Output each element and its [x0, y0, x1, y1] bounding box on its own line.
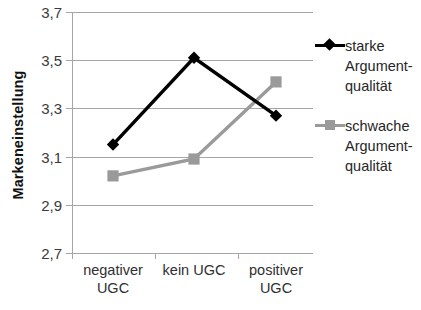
legend-label: schwache Argument- qualität	[345, 116, 413, 176]
legend: starke Argument- qualität schwache Argum…	[315, 36, 421, 196]
legend-entry-starke[interactable]: starke Argument- qualität	[315, 36, 421, 96]
legend-label: starke Argument- qualität	[345, 36, 413, 96]
square-marker-icon	[315, 116, 345, 133]
legend-entry-schwache[interactable]: schwache Argument- qualität	[315, 116, 421, 176]
diamond-marker-icon	[315, 36, 345, 53]
series-starke-argumentqualitaet	[107, 52, 282, 151]
data-point-marker[interactable]	[107, 170, 118, 181]
chart-figure: Markeneinstellung 3,7 3,5 3,3 3,1 2,9 2,…	[0, 0, 421, 310]
data-point-marker[interactable]	[188, 153, 199, 164]
series-line	[113, 58, 276, 145]
series-schwache-argumentqualitaet	[107, 76, 281, 181]
data-point-marker[interactable]	[270, 76, 281, 87]
